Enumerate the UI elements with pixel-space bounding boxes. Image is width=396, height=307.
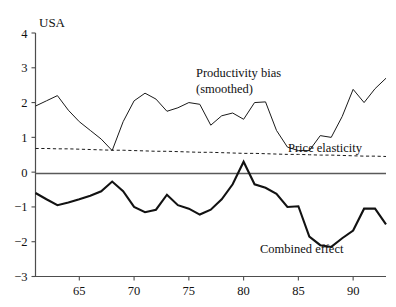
- y-tick-label: 4: [21, 27, 28, 41]
- series-annotation-label: Price elasticity: [288, 141, 363, 155]
- x-tick-label: 85: [292, 284, 305, 298]
- y-tick-label: 3: [21, 61, 27, 75]
- series-annotation-label: Productivity bias: [196, 66, 281, 80]
- plot-title-group: USA: [39, 15, 66, 30]
- chart-canvas: USA −3−2−101234 657075808590 Productivit…: [0, 0, 396, 307]
- y-tick-label: −1: [14, 200, 27, 214]
- y-axis-ticks: −3−2−101234: [14, 27, 35, 285]
- series-combined-effect: [36, 162, 387, 247]
- x-tick-label: 90: [347, 284, 360, 298]
- y-tick-label: 1: [21, 131, 27, 145]
- x-tick-label: 70: [128, 284, 141, 298]
- series-annotations: Productivity bias(smoothed)Price elastic…: [196, 66, 363, 256]
- y-tick-label: −2: [14, 235, 27, 249]
- x-tick-label: 75: [183, 284, 196, 298]
- x-tick-label: 65: [73, 284, 86, 298]
- chart-container: USA −3−2−101234 657075808590 Productivit…: [0, 0, 396, 307]
- x-axis-ticks: 657075808590: [73, 277, 359, 298]
- series-annotation-label: (smoothed): [196, 82, 253, 96]
- x-tick-label: 80: [237, 284, 250, 298]
- page-title: USA: [39, 15, 66, 30]
- series-annotation-label: Combined effect: [260, 242, 344, 256]
- y-tick-label: −3: [14, 270, 27, 284]
- y-tick-label: 2: [21, 96, 27, 110]
- y-tick-label: 0: [21, 166, 27, 180]
